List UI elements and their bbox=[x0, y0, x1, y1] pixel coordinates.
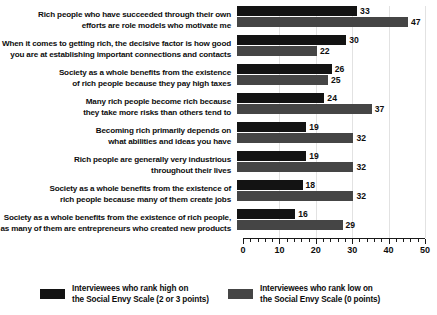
bar-line: 32 bbox=[237, 133, 437, 143]
bar-group: 1932 bbox=[237, 151, 437, 180]
bar-line: 29 bbox=[237, 220, 437, 230]
category-label-line: they take more risks than others tend to bbox=[0, 108, 231, 119]
chart-row: Society as a whole benefits from the exi… bbox=[0, 64, 437, 93]
chart-row: Rich people who have succeeded through t… bbox=[0, 6, 437, 35]
chart-row: Society as a whole benefits from the exi… bbox=[0, 209, 437, 238]
axis-tick-minor bbox=[359, 239, 360, 242]
category-label: Rich people who have succeeded through t… bbox=[0, 10, 237, 31]
category-label: When it comes to getting rich, the decis… bbox=[0, 39, 237, 60]
bar-line: 33 bbox=[237, 6, 437, 16]
bar-value-label: 30 bbox=[349, 36, 359, 45]
bar-line: 19 bbox=[237, 151, 437, 161]
bar-group: 2437 bbox=[237, 93, 437, 122]
bar-line: 37 bbox=[237, 104, 437, 114]
legend-label-line: the Social Envy Scale (2 or 3 points) bbox=[72, 294, 209, 305]
x-axis-ticks bbox=[243, 239, 425, 244]
category-label-line: Rich people who have succeeded through t… bbox=[0, 10, 231, 21]
bar-line: 25 bbox=[237, 75, 437, 85]
legend-item-low: Interviewees who rank low onthe Social E… bbox=[228, 283, 380, 305]
bar-high bbox=[237, 35, 346, 45]
axis-tick-minor bbox=[367, 239, 368, 242]
bar-low bbox=[237, 75, 328, 85]
bar-line: 26 bbox=[237, 64, 437, 74]
axis-tick-major bbox=[352, 239, 353, 244]
bar-line: 22 bbox=[237, 46, 437, 56]
axis-tick-minor bbox=[294, 239, 295, 242]
axis-tick-minor bbox=[345, 239, 346, 242]
category-label-line: When it comes to getting rich, the decis… bbox=[0, 39, 231, 50]
bar-value-label: 19 bbox=[309, 152, 319, 161]
bar-value-label: 24 bbox=[327, 94, 337, 103]
axis-tick-minor bbox=[250, 239, 251, 242]
bar-value-label: 25 bbox=[331, 76, 341, 85]
legend-label-line: Interviewees who rank high on bbox=[72, 283, 209, 294]
bar-low bbox=[237, 46, 317, 56]
bar-low bbox=[237, 133, 353, 143]
axis-tick-label: 10 bbox=[274, 245, 284, 255]
axis-tick-major bbox=[316, 239, 317, 244]
bar-value-label: 47 bbox=[411, 18, 421, 27]
bar-value-label: 18 bbox=[306, 181, 316, 190]
bar-high bbox=[237, 122, 306, 132]
category-label-line: Many rich people become rich because bbox=[0, 97, 231, 108]
legend-label-low: Interviewees who rank low onthe Social E… bbox=[260, 283, 380, 305]
bar-value-label: 33 bbox=[360, 7, 370, 16]
category-label: Society as a whole benefits from the exi… bbox=[0, 68, 237, 89]
category-label-line: Society as a whole benefits from the exi… bbox=[0, 184, 231, 195]
axis-tick-minor bbox=[338, 239, 339, 242]
bar-line: 30 bbox=[237, 35, 437, 45]
bar-value-label: 32 bbox=[356, 192, 366, 201]
bar-group: 3347 bbox=[237, 6, 437, 35]
axis-tick-minor bbox=[287, 239, 288, 242]
axis-tick-minor bbox=[258, 239, 259, 242]
category-label-line: Becoming rich primarily depends on bbox=[0, 126, 231, 137]
legend-swatch-high-icon bbox=[40, 289, 65, 299]
category-label-line: throughout their lives bbox=[0, 166, 231, 177]
axis-tick-major bbox=[243, 239, 244, 244]
category-label: Society as a whole benefits from the exi… bbox=[0, 184, 237, 205]
bar-line: 19 bbox=[237, 122, 437, 132]
category-label-line: you are at establishing important connec… bbox=[0, 50, 231, 61]
bar-group: 1932 bbox=[237, 122, 437, 151]
chart-row: Many rich people become rich becausethey… bbox=[0, 93, 437, 122]
bar-line: 32 bbox=[237, 191, 437, 201]
bar-value-label: 29 bbox=[346, 221, 356, 230]
chart-row: Becoming rich primarily depends onwhat a… bbox=[0, 122, 437, 151]
axis-tick-minor bbox=[396, 239, 397, 242]
chart-row: Society as a whole benefits from the exi… bbox=[0, 180, 437, 209]
axis-tick-minor bbox=[330, 239, 331, 242]
category-label-line: rich people because many of them create … bbox=[0, 195, 231, 206]
bar-low bbox=[237, 220, 343, 230]
axis-tick-minor bbox=[301, 239, 302, 242]
axis-tick-label: 0 bbox=[240, 245, 245, 255]
category-label-line: Rich people are generally very industrio… bbox=[0, 155, 231, 166]
bar-high bbox=[237, 6, 357, 16]
chart-row: Rich people are generally very industrio… bbox=[0, 151, 437, 180]
bar-value-label: 32 bbox=[356, 163, 366, 172]
category-label: Becoming rich primarily depends onwhat a… bbox=[0, 126, 237, 147]
bar-group: 1629 bbox=[237, 209, 437, 238]
axis-tick-minor bbox=[403, 239, 404, 242]
legend-label-line: Interviewees who rank low on bbox=[260, 283, 380, 294]
axis-tick-minor bbox=[265, 239, 266, 242]
x-axis-tick-labels: 01020304050 bbox=[243, 245, 425, 257]
chart-legend: Interviewees who rank high onthe Social … bbox=[0, 283, 437, 313]
category-label: Many rich people become rich becausethey… bbox=[0, 97, 237, 118]
axis-tick-label: 30 bbox=[347, 245, 357, 255]
bar-high bbox=[237, 180, 303, 190]
bar-high bbox=[237, 93, 324, 103]
legend-swatch-low-icon bbox=[228, 289, 253, 299]
axis-tick-minor bbox=[272, 239, 273, 242]
axis-tick-label: 40 bbox=[384, 245, 394, 255]
axis-tick-label: 20 bbox=[311, 245, 321, 255]
chart-row: When it comes to getting rich, the decis… bbox=[0, 35, 437, 64]
axis-tick-major bbox=[425, 239, 426, 244]
bar-value-label: 26 bbox=[335, 65, 345, 74]
bar-value-label: 19 bbox=[309, 123, 319, 132]
legend-item-high: Interviewees who rank high onthe Social … bbox=[40, 283, 209, 305]
axis-tick-minor bbox=[410, 239, 411, 242]
bar-group: 1832 bbox=[237, 180, 437, 209]
axis-tick-minor bbox=[381, 239, 382, 242]
bar-low bbox=[237, 191, 353, 201]
bar-value-label: 32 bbox=[356, 134, 366, 143]
